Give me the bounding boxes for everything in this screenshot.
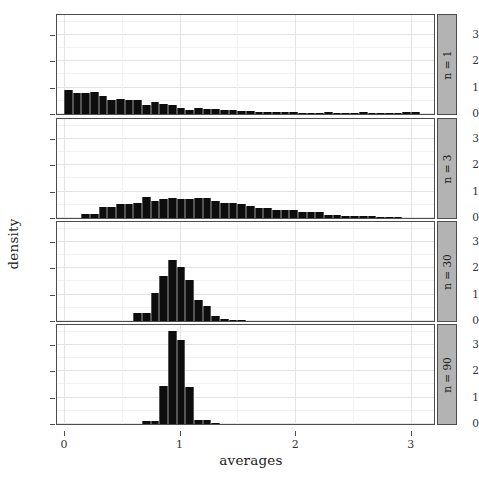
histogram-bar [125,100,134,114]
histogram-bar [333,113,342,114]
y-tick-mark [50,321,55,322]
y-tick-label: 0 [437,418,479,429]
histogram-bar [99,207,108,218]
histogram-bar [177,267,186,321]
histogram-bar [133,203,142,218]
gridline-minor-y [57,307,434,308]
histogram-bar [151,201,160,218]
gridline-major-x [64,119,65,218]
gridline-minor-y [57,47,434,48]
gridline-major-y [57,241,434,242]
y-tick-label: 0 [437,212,479,223]
x-tick-mark [295,431,296,436]
y-tick-mark [50,398,55,399]
y-tick-mark [50,371,55,372]
y-tick-label: 2 [437,365,479,376]
gridline-minor-x [237,15,238,114]
facet-panel-30 [56,221,435,322]
histogram-bar [177,199,186,218]
histogram-bar [350,113,359,114]
histogram-bar [159,199,168,218]
gridline-minor-y [57,331,434,332]
histogram-bar [159,276,168,321]
y-tick-label: 1 [437,289,479,300]
gridline-major-x [64,325,65,424]
gridline-major-y [57,397,434,398]
y-tick-label: 3 [437,133,479,144]
y-tick-mark [50,35,55,36]
gridline-major-x [64,222,65,321]
histogram-bar [151,102,160,114]
gridline-minor-x [237,222,238,321]
histogram-bar [229,203,238,218]
histogram-bar [194,300,203,321]
gridline-minor-x [353,119,354,218]
gridline-major-y [57,191,434,192]
y-tick-mark [50,424,55,425]
histogram-bar [133,100,142,114]
gridline-minor-y [57,280,434,281]
y-tick-label: 3 [437,339,479,350]
gridline-minor-y [57,228,434,229]
x-tick-label: 3 [399,438,423,451]
gridline-major-x [295,119,296,218]
histogram-bar [229,110,238,114]
histogram-bar [185,110,194,114]
gridline-major-x [411,325,412,424]
gridline-minor-y [57,410,434,411]
histogram-bar [64,90,73,114]
histogram-bar [237,320,246,321]
histogram-bar [359,112,368,114]
histogram-bar [315,113,324,114]
histogram-bar [307,113,316,114]
histogram-bar [237,204,246,218]
y-tick-mark [50,192,55,193]
histogram-bar [107,100,116,114]
gridline-minor-y [57,383,434,384]
y-tick-mark [50,218,55,219]
histogram-bar [333,215,342,218]
histogram-bar [142,197,151,218]
histogram-bar [133,313,142,321]
gridline-minor-y [57,254,434,255]
histogram-bar [177,108,186,114]
gridline-minor-x [353,15,354,114]
histogram-bar [324,215,333,218]
gridline-major-y [57,34,434,35]
histogram-bar [203,420,212,424]
histogram-bar [142,313,151,321]
histogram-bar [263,112,272,114]
histogram-bar [341,113,350,114]
y-axis-title: density [0,0,26,488]
histogram-bar [376,217,385,218]
histogram-bar [168,260,177,321]
gridline-minor-y [57,151,434,152]
histogram-bar [246,111,255,114]
histogram-bar [90,214,99,218]
gridline-major-y [57,370,434,371]
histogram-bar [229,320,238,321]
histogram-bar [151,293,160,321]
histogram-bar [211,201,220,218]
gridline-major-y [57,87,434,88]
histogram-bar [81,214,90,218]
gridline-major-y [57,423,434,424]
histogram-bar [298,113,307,114]
histogram-bar [359,216,368,218]
gridline-major-y [57,344,434,345]
histogram-bar [350,216,359,218]
histogram-bar [341,216,350,218]
histogram-bar [151,421,160,424]
y-tick-label: 0 [437,108,479,119]
y-tick-mark [50,295,55,296]
histogram-bar [272,210,281,218]
histogram-bar [220,319,229,321]
x-tick-label: 2 [283,438,307,451]
gridline-minor-x [353,325,354,424]
histogram-bar [246,206,255,218]
histogram-bar [168,198,177,218]
histogram-bar [324,112,333,114]
histogram-bar [402,112,411,114]
gridline-minor-x [122,222,123,321]
histogram-bar [203,306,212,321]
